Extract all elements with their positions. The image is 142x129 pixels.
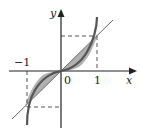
origin-label: 0 (64, 74, 71, 87)
tick-label-neg-one: −1 (14, 56, 30, 69)
line-y-equals-x (12, 20, 113, 119)
y-axis-label: y (49, 7, 57, 20)
area-between-curves-diagram: y x 0 1 −1 (0, 0, 142, 129)
x-axis-label: x (126, 74, 133, 87)
y-axis-arrow-icon (58, 9, 65, 17)
tick-label-pos-one: 1 (94, 74, 101, 87)
